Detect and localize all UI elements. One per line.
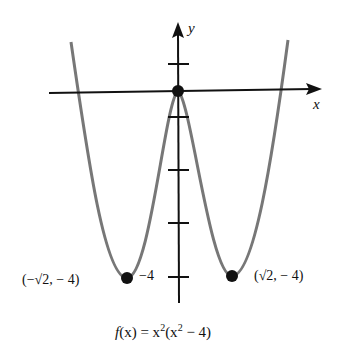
right-minimum-point xyxy=(226,270,238,282)
y-axis xyxy=(178,32,179,303)
function-caption: f(x) = x2(x2 − 4) xyxy=(115,322,211,341)
tick-label-minus4: −4 xyxy=(139,268,154,284)
origin-point xyxy=(172,85,184,97)
x-axis-label: x xyxy=(313,96,320,113)
right-point-label: (√2, − 4) xyxy=(254,268,303,284)
left-point-label: (−√2, − 4) xyxy=(22,272,79,288)
left-minimum-point xyxy=(121,272,133,284)
y-axis-label: y xyxy=(188,20,195,37)
graph xyxy=(0,0,349,354)
